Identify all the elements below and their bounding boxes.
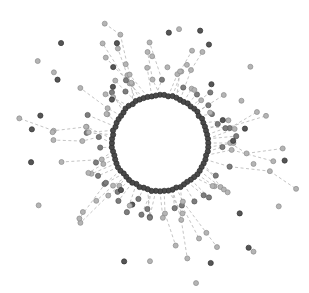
graph-node-satellite <box>28 160 33 165</box>
graph-node-mid <box>85 112 90 117</box>
graph-node-mid <box>206 103 211 108</box>
graph-node-mid <box>159 77 164 82</box>
graph-node-satellite <box>206 42 211 47</box>
graph-node-mid <box>139 212 144 217</box>
graph-node-mid <box>215 121 220 126</box>
graph-node-leaf <box>78 85 83 90</box>
graph-node-satellite <box>282 158 287 163</box>
graph-node-satellite <box>150 54 155 59</box>
graph-node-mid <box>206 195 211 200</box>
graph-node-leaf <box>17 116 22 121</box>
graph-node-leaf <box>115 46 120 51</box>
graph-node-leaf <box>197 236 202 241</box>
graph-node-mid <box>194 92 199 97</box>
graph-node-mid <box>96 134 101 139</box>
graph-node-mid <box>136 196 141 201</box>
graph-node-leaf <box>280 146 285 151</box>
graph-node-satellite <box>194 281 199 286</box>
graph-node-satellite <box>50 130 55 135</box>
graph-node-mid <box>103 180 108 185</box>
graph-node-satellite <box>192 87 197 92</box>
graph-node-satellite <box>35 59 40 64</box>
graph-node-leaf <box>179 217 184 222</box>
graph-node-satellite <box>276 204 281 209</box>
graph-node-leaf <box>103 55 108 60</box>
graph-node-leaf <box>77 216 82 221</box>
graph-node-satellite <box>198 28 203 33</box>
graph-node-satellite <box>251 161 256 166</box>
graph-node-mid <box>124 210 129 215</box>
graph-node-mid <box>95 173 100 178</box>
graph-node-leaf <box>118 32 123 37</box>
graph-node-leaf <box>173 243 178 248</box>
graph-node-leaf <box>210 184 215 189</box>
graph-node-satellite <box>84 124 89 129</box>
graph-node-leaf <box>200 49 205 54</box>
graph-node-leaf <box>267 169 272 174</box>
graph-node-mid <box>123 89 128 94</box>
graph-node-satellite <box>166 30 171 35</box>
graph-node-leaf <box>180 211 185 216</box>
graph-node-satellite <box>29 127 34 132</box>
graph-node-leaf <box>105 106 110 111</box>
graph-node-satellite <box>248 64 253 69</box>
graph-node-satellite <box>231 138 236 143</box>
graph-node-satellite <box>80 210 85 215</box>
figure-background <box>0 0 309 293</box>
graph-node-satellite <box>237 211 242 216</box>
graph-node-satellite <box>114 41 119 46</box>
graph-node-leaf <box>188 68 193 73</box>
graph-node-mid <box>223 126 228 131</box>
graph-node-mid <box>93 160 98 165</box>
graph-node-satellite <box>123 62 128 67</box>
graph-node-leaf <box>221 93 226 98</box>
graph-node-satellite <box>208 110 213 115</box>
graph-node-leaf <box>145 65 150 70</box>
graph-node-satellite <box>208 260 213 265</box>
graph-node-satellite <box>177 27 182 32</box>
graph-node-mid <box>227 164 232 169</box>
graph-node-leaf <box>99 157 104 162</box>
graph-node-mid <box>208 90 213 95</box>
graph-node-satellite <box>109 97 114 102</box>
graph-node-leaf <box>264 113 269 118</box>
graph-node-satellite <box>104 112 109 117</box>
graph-node-leaf <box>51 138 56 143</box>
graph-node-leaf <box>111 183 116 188</box>
graph-node-satellite <box>165 65 170 70</box>
graph-node-leaf <box>103 92 108 97</box>
graph-node-satellite <box>184 62 189 67</box>
graph-node-satellite <box>246 245 251 250</box>
graph-node-ring <box>153 93 158 98</box>
graph-node-mid <box>145 206 150 211</box>
graph-node-satellite <box>110 84 115 89</box>
graph-node-mid <box>172 206 177 211</box>
graph-node-satellite <box>127 203 132 208</box>
graph-node-leaf <box>294 186 299 191</box>
graph-node-mid <box>213 173 218 178</box>
graph-node-leaf <box>160 215 165 220</box>
graph-node-leaf <box>178 69 183 74</box>
graph-node-mid <box>123 78 128 83</box>
graph-node-satellite <box>55 77 60 82</box>
graph-node-mid <box>220 144 225 149</box>
graph-node-mid <box>116 198 121 203</box>
graph-node-leaf <box>244 151 249 156</box>
graph-node-leaf <box>94 198 99 203</box>
graph-node-leaf <box>214 245 219 250</box>
graph-node-leaf <box>106 193 111 198</box>
graph-node-satellite <box>58 40 63 45</box>
graph-node-leaf <box>113 78 118 83</box>
graph-node-leaf <box>229 147 234 152</box>
graph-node-mid <box>147 215 152 220</box>
graph-node-satellite <box>220 118 225 123</box>
graph-node-leaf <box>150 77 155 82</box>
graph-node-leaf <box>59 160 64 165</box>
graph-node-leaf <box>147 40 152 45</box>
graph-node-satellite <box>147 259 152 264</box>
graph-node-leaf <box>199 98 204 103</box>
graph-node-mid <box>181 85 186 90</box>
graph-node-leaf <box>204 230 209 235</box>
graph-node-satellite <box>122 259 127 264</box>
graph-node-satellite <box>251 249 256 254</box>
